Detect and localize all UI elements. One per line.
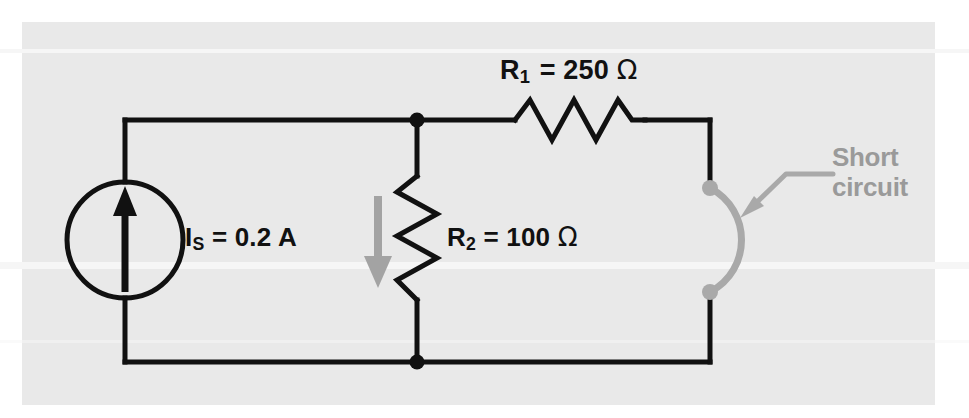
label-r1-equals: = (540, 55, 556, 85)
label-r2-symbol: R (447, 222, 466, 252)
label-is-equals: = (212, 222, 227, 252)
label-r2-value: 100 (506, 222, 550, 252)
circuit-schematic (0, 0, 969, 418)
short-circuit-terminal-top (702, 180, 718, 196)
label-r1-value: 250 (563, 55, 609, 85)
junction-dot-top (410, 113, 425, 128)
current-source-arrow (113, 186, 137, 292)
label-current-source: IS = 0.2 A (185, 222, 297, 255)
annotation-leader-line (740, 174, 833, 218)
annotation-short-circuit-text: Short circuit (832, 142, 908, 202)
label-r2-unit: Ω (558, 222, 578, 252)
short-circuit-arc (710, 188, 742, 292)
junction-dot-bottom (410, 355, 425, 370)
circuit-wires (67, 100, 710, 362)
circuit-diagram-screenshot: R1 = 250 Ω IS = 0.2 A R2 = 100 Ω Short c… (0, 0, 969, 418)
label-r1-unit: Ω (617, 54, 638, 85)
label-r1-subscript: 1 (520, 66, 532, 87)
branch-current-arrow-icon (364, 196, 392, 288)
label-is-value: 0.2 A (235, 222, 297, 252)
label-r2-subscript: 2 (466, 234, 476, 254)
label-resistor-r1: R1 = 250 Ω (500, 54, 638, 88)
resistor-r2-zigzag (397, 176, 437, 300)
label-is-subscript: S (192, 234, 204, 254)
label-r2-equals: = (483, 222, 498, 252)
resistor-r1-zigzag (515, 100, 645, 140)
short-circuit-terminal-bottom (702, 284, 718, 300)
label-r1-symbol: R (500, 55, 520, 85)
label-resistor-r2: R2 = 100 Ω (447, 222, 578, 255)
